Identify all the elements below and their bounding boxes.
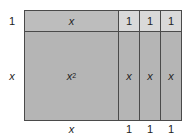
x-squared-tile: x2: [24, 31, 119, 121]
left-label-x: x: [6, 31, 18, 120]
bottom-label-x: x: [24, 122, 119, 136]
x-tile-top: x: [24, 10, 119, 32]
left-label-1: 1: [6, 10, 18, 31]
x-tile-vertical-3: x: [160, 31, 182, 121]
bottom-label-1c: 1: [160, 122, 182, 136]
bottom-label-1a: 1: [118, 122, 140, 136]
unit-tile-1: 1: [118, 10, 140, 32]
x-tile-vertical-1: x: [118, 31, 140, 121]
unit-tile-2: 1: [139, 10, 161, 32]
x-tile-vertical-2: x: [139, 31, 161, 121]
unit-tile-3: 1: [160, 10, 182, 32]
bottom-label-1b: 1: [139, 122, 161, 136]
